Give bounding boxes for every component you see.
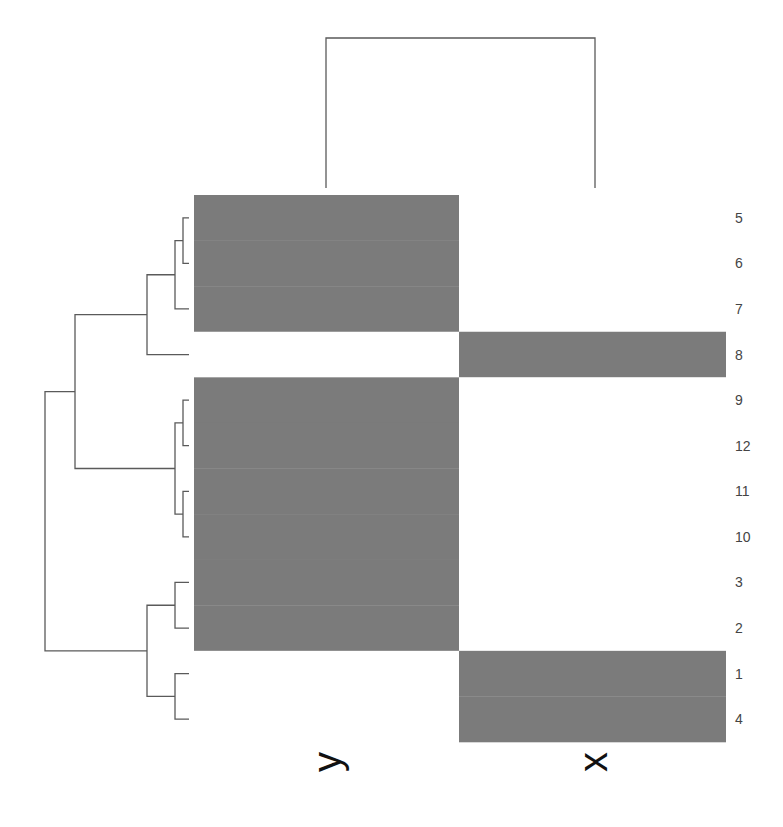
heatmap-cell bbox=[194, 651, 459, 697]
heatmap-cell bbox=[194, 195, 459, 241]
heatmap-cell bbox=[459, 514, 726, 560]
row-labels: 567891211103214 bbox=[735, 210, 751, 727]
row-label: 6 bbox=[735, 255, 743, 271]
dendrogram-branch bbox=[147, 275, 189, 355]
row-label: 1 bbox=[735, 666, 743, 682]
dendrogram-branch bbox=[183, 400, 189, 446]
row-label: 7 bbox=[735, 301, 743, 317]
dendrogram-branch bbox=[175, 582, 189, 628]
dendrogram-branch bbox=[183, 491, 189, 537]
heatmap-cell bbox=[194, 605, 459, 651]
clustered-heatmap: 567891211103214 yx bbox=[0, 0, 783, 827]
dendrogram-branch bbox=[175, 423, 183, 514]
heatmap-cell bbox=[459, 423, 726, 469]
row-label: 12 bbox=[735, 438, 751, 454]
row-label: 3 bbox=[735, 574, 743, 590]
heatmap-cell bbox=[194, 469, 459, 515]
dendrogram-branch bbox=[75, 315, 175, 469]
column-labels: yx bbox=[305, 752, 615, 772]
row-label: 9 bbox=[735, 392, 743, 408]
column-label: y bbox=[305, 752, 349, 772]
heatmap-cell bbox=[459, 377, 726, 423]
row-label: 10 bbox=[735, 529, 751, 545]
heatmap-cell bbox=[194, 286, 459, 332]
row-label: 11 bbox=[735, 483, 750, 499]
heatmap-cell bbox=[459, 241, 726, 287]
heatmap-cell bbox=[459, 605, 726, 651]
heatmap-cell bbox=[194, 514, 459, 560]
heatmap-cell bbox=[459, 651, 726, 697]
row-label: 5 bbox=[735, 210, 743, 226]
dendrogram-branch bbox=[147, 605, 175, 696]
dendrogram-branch bbox=[326, 38, 595, 188]
heatmap-cell bbox=[194, 332, 459, 378]
heatmap-cell bbox=[459, 469, 726, 515]
heatmap-cell bbox=[459, 286, 726, 332]
heatmap-cell bbox=[194, 423, 459, 469]
heatmap-cells bbox=[194, 195, 726, 742]
row-label: 8 bbox=[735, 347, 743, 363]
heatmap-cell bbox=[459, 332, 726, 378]
heatmap-svg: 567891211103214 yx bbox=[0, 0, 783, 827]
heatmap-cell bbox=[459, 560, 726, 606]
column-label: x bbox=[571, 752, 615, 772]
heatmap-cell bbox=[194, 560, 459, 606]
dendrogram-branch bbox=[183, 218, 189, 264]
dendrogram-branch bbox=[175, 241, 189, 309]
dendrogram-branch bbox=[175, 674, 189, 720]
column-dendrogram bbox=[326, 38, 595, 188]
row-label: 2 bbox=[735, 620, 743, 636]
heatmap-cell bbox=[194, 696, 459, 742]
heatmap-cell bbox=[194, 377, 459, 423]
row-dendrogram bbox=[45, 218, 189, 719]
heatmap-cell bbox=[194, 241, 459, 287]
row-label: 4 bbox=[735, 711, 743, 727]
dendrogram-branch bbox=[45, 392, 147, 651]
heatmap-cell bbox=[459, 696, 726, 742]
heatmap-cell bbox=[459, 195, 726, 241]
